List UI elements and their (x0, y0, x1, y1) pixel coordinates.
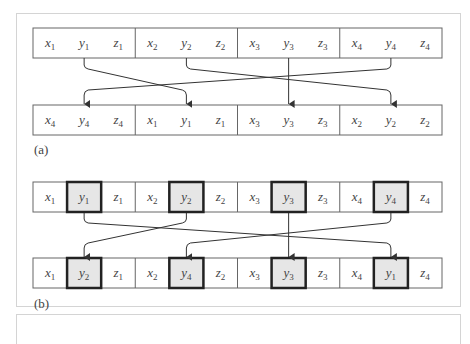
part-a-bottom-row: x4y4z4x1y1z1x3y3z3x2y2z2 (33, 105, 442, 135)
part-a-diagram: x1y1z1x2y2z2x3y3z3x4y4z4x4y4z4x1y1z1x3y3… (33, 28, 442, 135)
part-b-label: (b) (34, 296, 49, 312)
part-b-top-row: x1y1z1x2y2z2x3y3z3x4y4z4 (33, 182, 442, 212)
part-b-diagram: x1y1z1x2y2z2x3y3z3x4y4z4x1y2z1x2y4z2x3y3… (33, 182, 442, 288)
part-a-label: (a) (34, 142, 48, 158)
arrow (84, 58, 391, 104)
part-a-top-row: x1y1z1x2y2z2x3y3z3x4y4z4 (33, 28, 442, 58)
arrow (84, 58, 186, 104)
arrow (84, 213, 186, 257)
arrow (84, 213, 391, 257)
part-b-bottom-row: x1y2z1x2y4z2x3y3z3x4y1z4 (33, 258, 442, 288)
